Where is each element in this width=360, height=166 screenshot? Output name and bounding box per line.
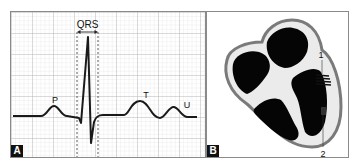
panel-b-label: B [207,145,219,157]
heart-diagram: 1 2 [207,12,349,158]
marker-1-label: 1 [318,50,323,60]
marker-2-label: 2 [320,149,325,158]
u-wave-label: U [184,100,191,110]
panel-a-ecg: QRS P T U A [10,11,206,158]
p-wave-label: P [52,95,58,105]
t-wave-label: T [143,90,149,100]
qrs-label: QRS [77,19,99,30]
panel-b-heart: 1 2 B [206,11,349,158]
ecg-diagram: QRS P T U [11,12,206,158]
ecg-grid [11,12,206,158]
panel-a-label: A [11,145,23,157]
